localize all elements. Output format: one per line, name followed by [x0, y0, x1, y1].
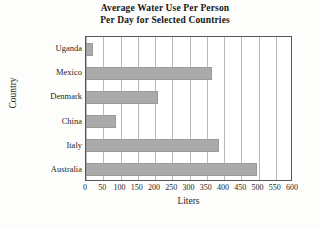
bar-row	[86, 61, 212, 85]
chart-title-line-2: Per Day for Selected Countries	[55, 15, 275, 27]
y-axis-label: Country	[8, 58, 18, 128]
y-axis-tick-labels: UgandaMexicoDenmarkChinaItalyAustralia	[18, 36, 82, 181]
bar-row	[86, 85, 158, 109]
bar-uganda	[86, 43, 93, 56]
x-tick-label-550: 550	[269, 183, 281, 193]
bar-row	[86, 134, 219, 158]
bar-row	[86, 158, 257, 181]
plot-area	[85, 36, 292, 181]
x-tick-label-250: 250	[165, 183, 177, 193]
y-tick-label-mexico: Mexico	[20, 67, 82, 77]
bar-row	[86, 37, 93, 61]
y-tick-label-australia: Australia	[20, 164, 82, 174]
bar-australia	[86, 163, 257, 176]
bar-denmark	[86, 91, 158, 104]
bar-chart-figure: Average Water Use Per Person Per Day for…	[0, 0, 321, 228]
x-tick-label-150: 150	[131, 183, 143, 193]
bar-mexico	[86, 67, 212, 80]
x-axis-tick-labels: 050100150200250300350400450500550600	[85, 183, 292, 195]
bar-row	[86, 110, 116, 134]
y-tick-label-denmark: Denmark	[20, 91, 82, 101]
x-tick-label-500: 500	[252, 183, 264, 193]
bar-china	[86, 115, 116, 128]
x-tick-label-450: 450	[234, 183, 246, 193]
x-tick-label-350: 350	[200, 183, 212, 193]
y-tick-label-china: China	[20, 116, 82, 126]
y-tick-label-italy: Italy	[20, 140, 82, 150]
chart-title-line-1: Average Water Use Per Person	[55, 3, 275, 15]
x-axis-label: Liters	[85, 196, 292, 206]
x-tick-label-0: 0	[83, 183, 87, 193]
x-tick-label-200: 200	[148, 183, 160, 193]
chart-title: Average Water Use Per Person Per Day for…	[55, 3, 275, 26]
x-tick-label-600: 600	[286, 183, 298, 193]
y-tick-label-uganda: Uganda	[20, 43, 82, 53]
bars-layer	[86, 37, 291, 180]
x-tick-label-50: 50	[98, 183, 106, 193]
x-tick-label-300: 300	[183, 183, 195, 193]
x-tick-label-100: 100	[114, 183, 126, 193]
x-tick-label-400: 400	[217, 183, 229, 193]
bar-italy	[86, 139, 219, 152]
